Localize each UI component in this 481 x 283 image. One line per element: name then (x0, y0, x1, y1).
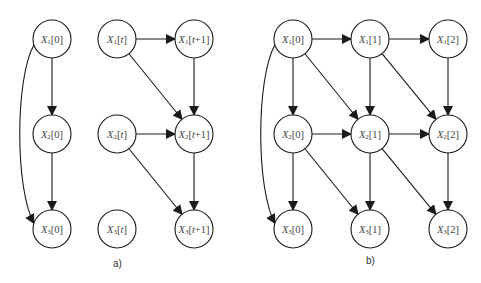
edge-arrow (382, 54, 436, 120)
node-label: X2[t] (106, 129, 127, 141)
edge-arrow (20, 45, 34, 224)
node-a-x1-0: X1[0] (33, 20, 71, 58)
node-label: X2[2] (436, 129, 459, 141)
node-a-x1-t: X1[t] (98, 20, 136, 58)
node-b-x2-1: X2[1] (351, 115, 389, 153)
node-b-x2-0: X2[0] (274, 115, 312, 153)
edge-arrow (129, 149, 182, 214)
node-a-x3-t: X3[t] (98, 210, 136, 248)
node-b-x3-0: X3[0] (274, 210, 312, 248)
node-label: X2[t+1] (177, 129, 209, 141)
node-a-x3-t1: X3[t+1] (175, 210, 213, 248)
node-label: X2[1] (358, 129, 381, 141)
node-label: X1[1] (358, 34, 381, 46)
panel-b-caption: b) (366, 255, 375, 266)
node-label: X1[0] (40, 34, 63, 46)
bayesian-network-diagram: X1[0]X2[0]X3[0]X1[t]X2[t]X3[t]X1[t+1]X2[… (0, 0, 481, 283)
node-a-x1-t1: X1[t+1] (175, 20, 213, 58)
node-label: X3[t+1] (177, 224, 209, 236)
node-label: X1[t+1] (177, 34, 209, 46)
node-label: X3[1] (358, 224, 381, 236)
node-a-x2-0: X2[0] (33, 115, 71, 153)
edge-arrow (129, 54, 182, 119)
node-label: X3[t] (106, 224, 127, 236)
node-b-x1-0: X1[0] (274, 20, 312, 58)
node-label: X1[t] (106, 34, 127, 46)
node-a-x2-t: X2[t] (98, 115, 136, 153)
node-label: X3[2] (436, 224, 459, 236)
edge-arrow (382, 149, 436, 215)
node-b-x1-1: X1[1] (351, 20, 389, 58)
node-b-x3-2: X3[2] (429, 210, 467, 248)
edge-arrow (305, 149, 358, 214)
edge-arrow (305, 54, 358, 119)
node-label: X2[0] (281, 129, 304, 141)
node-label: X3[0] (40, 224, 63, 236)
node-label: X2[0] (40, 129, 63, 141)
node-b-x2-2: X2[2] (429, 115, 467, 153)
node-label: X1[0] (281, 34, 304, 46)
node-b-x3-1: X3[1] (351, 210, 389, 248)
node-label: X1[2] (436, 34, 459, 46)
node-b-x1-2: X1[2] (429, 20, 467, 58)
edge-arrow (261, 45, 275, 224)
node-a-x2-t1: X2[t+1] (175, 115, 213, 153)
node-a-x3-0: X3[0] (33, 210, 71, 248)
node-label: X3[0] (281, 224, 304, 236)
panel-a-caption: a) (113, 258, 122, 269)
